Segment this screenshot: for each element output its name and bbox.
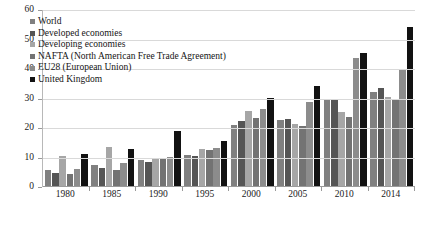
y-axis-tick-label: 60 bbox=[25, 5, 35, 15]
bar bbox=[152, 158, 159, 186]
bar bbox=[59, 156, 66, 187]
x-axis-tick-label: 1990 bbox=[135, 190, 182, 200]
y-axis-tick bbox=[38, 10, 42, 11]
legend-label: NAFTA (North American Free Trade Agreeme… bbox=[38, 52, 226, 62]
bar bbox=[260, 109, 267, 186]
bar bbox=[52, 173, 59, 186]
gridline bbox=[43, 158, 415, 159]
legend-swatch-icon bbox=[30, 66, 35, 71]
bar bbox=[267, 98, 274, 186]
bar bbox=[385, 97, 392, 186]
x-axis-tick-label: 1985 bbox=[89, 190, 136, 200]
bar bbox=[245, 111, 252, 186]
bar bbox=[299, 126, 306, 186]
bar bbox=[99, 168, 106, 186]
legend-label: World bbox=[38, 17, 62, 27]
bar bbox=[199, 149, 206, 186]
x-axis-tick-label: 2014 bbox=[368, 190, 415, 200]
bar bbox=[160, 159, 167, 186]
gridline bbox=[43, 10, 415, 11]
y-axis-tick-label: 10 bbox=[25, 153, 35, 163]
x-axis-tick bbox=[182, 187, 183, 191]
bar bbox=[360, 53, 367, 186]
legend-swatch-icon bbox=[30, 77, 35, 82]
bar bbox=[192, 156, 199, 186]
bar bbox=[231, 125, 238, 186]
bar bbox=[45, 170, 52, 186]
x-axis-tick bbox=[89, 187, 90, 191]
bar bbox=[167, 157, 174, 186]
y-axis-tick bbox=[38, 158, 42, 159]
chart-legend: WorldDeveloped economiesDeveloping econo… bbox=[30, 16, 226, 86]
gridline bbox=[43, 128, 415, 129]
bar bbox=[184, 155, 191, 186]
bar bbox=[238, 121, 245, 186]
bar bbox=[407, 27, 414, 186]
bar bbox=[392, 99, 399, 186]
y-axis-tick bbox=[38, 128, 42, 129]
y-axis-tick-label: 30 bbox=[25, 94, 35, 104]
bar bbox=[113, 170, 120, 186]
bar bbox=[106, 147, 113, 186]
x-axis-tick bbox=[228, 187, 229, 191]
bar bbox=[138, 160, 145, 186]
y-axis-tick bbox=[38, 40, 42, 41]
x-axis-tick-label: 2000 bbox=[228, 190, 275, 200]
x-axis-tick bbox=[414, 187, 415, 191]
x-axis-tick-label: 2005 bbox=[275, 190, 322, 200]
bar bbox=[277, 120, 284, 186]
legend-swatch-icon bbox=[30, 19, 35, 24]
y-axis-tick bbox=[38, 69, 42, 70]
x-axis-tick bbox=[368, 187, 369, 191]
bar bbox=[213, 148, 220, 186]
legend-item: Developed economies bbox=[30, 28, 226, 40]
legend-label: Developing economies bbox=[38, 40, 125, 50]
bar bbox=[67, 174, 74, 186]
legend-label: Developed economies bbox=[38, 29, 122, 39]
bar bbox=[91, 165, 98, 186]
bar bbox=[74, 169, 81, 186]
bar bbox=[145, 162, 152, 186]
y-axis-tick-label: 0 bbox=[29, 182, 34, 192]
x-axis-tick bbox=[275, 187, 276, 191]
bar bbox=[338, 112, 345, 186]
y-axis-tick bbox=[38, 187, 42, 188]
x-axis-tick-label: 2010 bbox=[321, 190, 368, 200]
bar bbox=[206, 150, 213, 186]
bar bbox=[120, 163, 127, 186]
bar-chart: 0102030405060 19801985199019952000200520… bbox=[0, 0, 421, 234]
bar bbox=[314, 86, 321, 186]
x-axis-labels: 19801985199019952000200520102014 bbox=[42, 190, 414, 200]
x-axis-line bbox=[43, 186, 415, 187]
x-axis-tick bbox=[135, 187, 136, 191]
bar bbox=[331, 99, 338, 186]
legend-item: NAFTA (North American Free Trade Agreeme… bbox=[30, 51, 226, 63]
bar bbox=[378, 88, 385, 186]
bar bbox=[353, 58, 360, 186]
bar bbox=[370, 92, 377, 186]
legend-item: World bbox=[30, 16, 226, 28]
y-axis-tick bbox=[38, 99, 42, 100]
x-axis-tick-label: 1995 bbox=[182, 190, 229, 200]
legend-label: United Kingdom bbox=[38, 75, 102, 85]
gridline bbox=[43, 99, 415, 100]
legend-swatch-icon bbox=[30, 54, 35, 59]
y-axis-tick-label: 20 bbox=[25, 123, 35, 133]
legend-swatch-icon bbox=[30, 42, 35, 47]
bar bbox=[292, 124, 299, 186]
bar bbox=[306, 102, 313, 186]
x-axis-tick-label: 1980 bbox=[42, 190, 89, 200]
bar bbox=[174, 131, 181, 186]
legend-item: Developing economies bbox=[30, 39, 226, 51]
legend-label: EU28 (European Union) bbox=[38, 63, 131, 73]
x-axis-tick bbox=[321, 187, 322, 191]
bar bbox=[324, 99, 331, 186]
legend-swatch-icon bbox=[30, 31, 35, 36]
bar bbox=[81, 154, 88, 186]
bar bbox=[128, 149, 135, 186]
legend-item: United Kingdom bbox=[30, 74, 226, 86]
legend-item: EU28 (European Union) bbox=[30, 62, 226, 74]
bar bbox=[221, 141, 228, 186]
